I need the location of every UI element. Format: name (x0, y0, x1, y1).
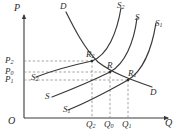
supply-label-left-s1: S1 (63, 105, 71, 114)
diagram-canvas (0, 0, 177, 137)
y-tick-p1-sub: 1 (11, 78, 14, 84)
x-tick-q1-sub: 1 (129, 123, 132, 129)
x-tick-q1: Q1 (122, 120, 132, 129)
supply-label-top-s1-sub: 1 (160, 22, 163, 28)
axes (24, 15, 168, 118)
x-axis-label: Q (165, 118, 172, 128)
point-R1 (127, 79, 130, 82)
equilibrium-label-r1-sub: 1 (134, 72, 137, 78)
demand-label-right: D (150, 88, 157, 97)
demand-label-top: D (60, 2, 67, 11)
x-tick-q2-sub: 2 (93, 123, 96, 129)
supply-label-top-s: S (135, 13, 140, 22)
equilibrium-label-r: R (107, 61, 113, 70)
supply-label-top-s1: S1 (155, 19, 163, 28)
supply-label-left-s1-sub: 1 (68, 108, 71, 114)
x-tick-q0: Q0 (104, 120, 114, 129)
origin-label: O (8, 116, 15, 126)
equilibrium-label-r2-sub: 2 (92, 53, 95, 59)
supply-demand-figure: P Q O P2 P0 P1 Q2 Q0 Q1 D D S2 S S1 S2 S… (0, 0, 177, 137)
y-tick-p2: P2 (5, 56, 14, 65)
supply-label-top-s2-sub: 2 (122, 4, 125, 10)
curves (36, 8, 156, 110)
y-tick-p2-sub: 2 (11, 59, 14, 65)
supply-label-top-s2: S2 (117, 1, 125, 10)
x-tick-q0-sub: 0 (111, 123, 114, 129)
y-tick-p1: P1 (5, 75, 14, 84)
point-R (109, 71, 112, 74)
demand-curve-D (66, 12, 152, 87)
supply-label-left-s2-sub: 2 (36, 76, 39, 82)
equilibrium-label-r2: R2 (86, 50, 95, 59)
supply-label-left-s: S (45, 92, 50, 101)
x-tick-q2: Q2 (86, 120, 96, 129)
point-R2 (91, 60, 94, 63)
equilibrium-label-r1: R1 (128, 69, 137, 78)
y-axis-label: P (14, 3, 20, 13)
supply-label-left-s2: S2 (31, 73, 39, 82)
